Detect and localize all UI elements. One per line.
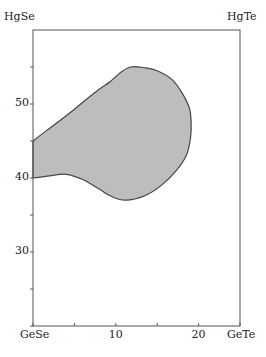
y-tick-label: 40 — [15, 170, 29, 183]
x-tick-label: 20 — [192, 328, 206, 341]
plot-area — [30, 30, 240, 326]
shaded-region — [33, 67, 191, 201]
phase-diagram-chart — [0, 0, 266, 357]
corner-label-top-left: HgSe — [4, 10, 35, 23]
y-tick-label: 50 — [15, 96, 29, 109]
y-tick-label: 30 — [15, 244, 29, 257]
x-tick-label: 10 — [109, 328, 123, 341]
corner-label-bottom-left: GeSe — [20, 328, 49, 341]
corner-label-top-right: HgTe — [227, 10, 257, 23]
corner-label-bottom-right: GeTe — [227, 328, 255, 341]
